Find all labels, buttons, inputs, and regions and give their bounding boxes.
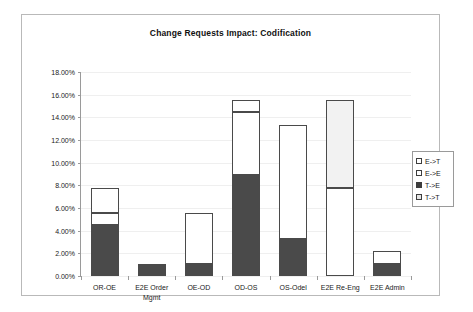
x-axis-tick-label: OS-Odel [270,283,317,293]
y-axis-tick-label: 0.00% [55,273,81,280]
chart-frame: Change Requests Impact: Codification 0.0… [21,14,440,296]
x-axis-tick-label: OE-OD [175,283,222,293]
y-axis-tick-label: 10.00% [51,159,81,166]
chart-title: Change Requests Impact: Codification [22,28,439,38]
y-axis-tick-label: 2.00% [55,250,81,257]
y-axis-tick-label: 6.00% [55,205,81,212]
bar-segment-te[interactable] [185,264,213,276]
x-axis-tick-label: E2E Order Mgmt [128,283,175,303]
bar-segment-ee[interactable] [326,188,354,276]
chart-legend: E->TE->ET->ET->T [412,151,454,207]
legend-item-ee[interactable]: E->E [416,167,450,179]
legend-swatch-icon [416,182,422,188]
y-axis-tick-label: 14.00% [51,114,81,121]
bar-segment-te[interactable] [373,264,401,276]
bar-segment-ee[interactable] [279,125,307,238]
bar-segment-ee[interactable] [232,112,260,175]
x-tick-mark [128,276,129,280]
x-axis-tick-label: OR-OE [81,283,128,293]
legend-item-et[interactable]: E->T [416,155,450,167]
x-tick-mark [222,276,223,280]
bar-segment-ee[interactable] [373,251,401,264]
x-axis-tick-label: E2E Admin [364,283,411,293]
bar-segment-tt[interactable] [326,100,354,188]
plot-area: 0.00%2.00%4.00%6.00%8.00%10.00%12.00%14.… [80,72,411,277]
x-tick-mark [270,276,271,280]
legend-swatch-icon [416,194,422,200]
bar-group[interactable] [175,72,222,276]
y-axis-tick-label: 8.00% [55,182,81,189]
y-axis-tick-label: 12.00% [51,137,81,144]
bar-segment-te[interactable] [279,239,307,276]
x-tick-mark [364,276,365,280]
y-axis-tick-label: 18.00% [51,69,81,76]
y-axis-tick-label: 4.00% [55,227,81,234]
bar-segment-te[interactable] [138,264,166,276]
legend-item-tt[interactable]: T->T [416,191,450,203]
legend-item-label: E->E [425,170,441,177]
bar-segment-et[interactable] [232,100,260,112]
y-axis-tick-label: 16.00% [51,91,81,98]
legend-swatch-icon [416,170,422,176]
legend-item-label: T->E [425,182,440,189]
legend-item-te[interactable]: T->E [416,179,450,191]
legend-swatch-icon [416,158,422,164]
bar-group[interactable] [128,72,175,276]
bar-series-group [81,72,411,276]
bar-segment-ee[interactable] [91,213,119,225]
bar-segment-te[interactable] [232,175,260,276]
bar-segment-et[interactable] [91,188,119,213]
bar-segment-ee[interactable] [185,213,213,264]
x-axis-tick-label: OD-OS [222,283,269,293]
bar-segment-te[interactable] [91,225,119,276]
bar-group[interactable] [317,72,364,276]
bar-group[interactable] [364,72,411,276]
x-tick-mark [317,276,318,280]
x-axis-tick-label: E2E Re-Eng [317,283,364,293]
bar-group[interactable] [270,72,317,276]
y-gridline [81,276,411,277]
x-tick-mark [81,276,82,280]
x-tick-mark [411,276,412,280]
x-tick-mark [175,276,176,280]
legend-item-label: E->T [425,158,440,165]
bar-group[interactable] [81,72,128,276]
legend-item-label: T->T [425,194,440,201]
bar-group[interactable] [222,72,269,276]
